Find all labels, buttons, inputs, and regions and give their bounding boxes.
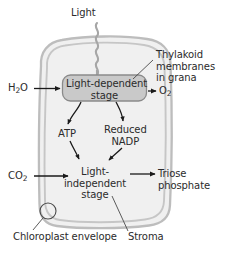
light-dependent-line-1: Light-dependent xyxy=(66,78,143,90)
label-triose-phosphate: Triose phosphate xyxy=(158,168,210,191)
light-independent-line-1: Light- xyxy=(62,166,128,178)
water-tail: O xyxy=(20,82,28,93)
label-chloroplast-envelope: Chloroplast envelope xyxy=(13,231,117,243)
label-light: Light xyxy=(71,7,95,19)
light-independent-line-2: independent xyxy=(62,178,128,190)
oxygen-symbol: O xyxy=(159,85,167,96)
carbon-dioxide-subscript: 2 xyxy=(23,174,28,183)
label-reduced-nadp: Reduced NADP xyxy=(104,124,147,147)
nadp-line-2: NADP xyxy=(104,136,147,148)
label-carbon-dioxide: CO2 xyxy=(8,170,27,183)
triose-line-1: Triose xyxy=(158,168,210,180)
diagram-canvas: Light H2O O2 CO2 Thylakoid membranes in … xyxy=(0,0,228,258)
thylakoid-line-3: in grana xyxy=(156,72,215,84)
water-subscript: 2 xyxy=(15,86,20,95)
label-water: H2O xyxy=(8,82,28,95)
label-atp: ATP xyxy=(58,128,76,140)
label-light-independent-stage: Light- independent stage xyxy=(62,166,128,201)
thylakoid-line-2: membranes xyxy=(156,61,215,73)
oxygen-subscript: 2 xyxy=(167,89,172,98)
carbon-dioxide-symbol: CO xyxy=(8,170,23,181)
nadp-line-1: Reduced xyxy=(104,124,147,136)
thylakoid-line-1: Thylakoid xyxy=(156,49,215,61)
light-dependent-line-2: stage xyxy=(66,90,143,102)
label-light-dependent-stage: Light-dependent stage xyxy=(66,78,143,101)
label-oxygen: O2 xyxy=(159,85,171,98)
triose-line-2: phosphate xyxy=(158,180,210,192)
label-stroma: Stroma xyxy=(128,231,164,243)
label-thylakoid-membranes: Thylakoid membranes in grana xyxy=(156,49,215,84)
light-independent-line-3: stage xyxy=(62,189,128,201)
